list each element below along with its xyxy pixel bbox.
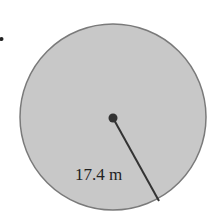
list-bullet-dot	[0, 37, 4, 41]
center-point	[109, 114, 118, 123]
radius-label: 17.4 m	[75, 165, 122, 184]
diagram-canvas: 17.4 m	[0, 0, 218, 223]
circle-diagram: 17.4 m	[0, 0, 218, 223]
